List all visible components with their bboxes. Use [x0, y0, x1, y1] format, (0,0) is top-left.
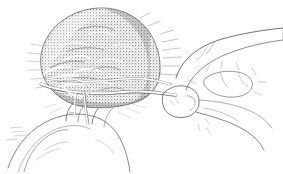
- illustration-canvas: Hand holding a stone with a cord wrapped…: [0, 0, 283, 174]
- illustration-figure: Hand holding a stone with a cord wrapped…: [0, 0, 283, 174]
